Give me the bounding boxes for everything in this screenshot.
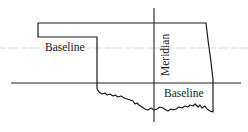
oklahoma-diagram: Baseline Meridian Baseline [0, 0, 248, 132]
meridian-label: Meridian [159, 34, 171, 76]
main-baseline-label: Baseline [164, 87, 204, 99]
panhandle-baseline-label: Baseline [45, 41, 85, 53]
